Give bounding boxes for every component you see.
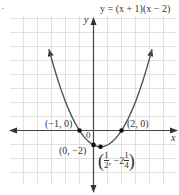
key-point	[91, 143, 96, 148]
key-point	[119, 128, 124, 133]
key-point	[98, 144, 103, 149]
point-label-neg1: (−1, 0)	[45, 119, 72, 129]
key-point	[77, 128, 82, 133]
parabola-graph	[0, 0, 179, 195]
origin-label: 0	[86, 131, 91, 140]
vertex-label: (12, −214)	[98, 151, 135, 170]
figure-marker: .	[2, 2, 4, 11]
equation-label: y = (x + 1)(x − 2)	[100, 4, 170, 14]
parabola-curve	[49, 49, 152, 147]
y-axis-label: y	[84, 15, 88, 25]
x-axis-label: x	[171, 133, 175, 143]
axes	[9, 17, 178, 193]
point-label-2: (2, 0)	[127, 119, 149, 129]
point-label-0: (0, −2)	[59, 146, 86, 156]
